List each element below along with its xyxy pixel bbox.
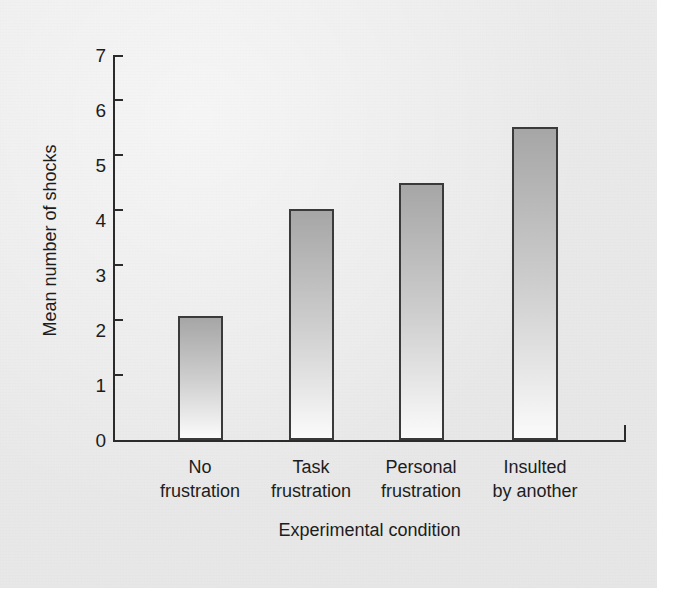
y-axis-top-cap — [113, 55, 123, 57]
y-tick-label-6: 6 — [76, 100, 106, 122]
y-tick-label-0: 0 — [76, 430, 106, 452]
x-axis-title: Experimental condition — [113, 520, 626, 541]
bar-no-frustration[interactable] — [178, 316, 223, 440]
y-axis-line — [113, 55, 115, 442]
bar-personal-frustration[interactable] — [399, 183, 444, 440]
x-label-line-2: by another — [465, 479, 605, 503]
bar-task-frustration[interactable] — [289, 209, 334, 440]
y-tick-label-2: 2 — [76, 320, 106, 342]
y-tick-label-5: 5 — [76, 155, 106, 177]
y-tick-label-1: 1 — [76, 375, 106, 397]
x-label-line-1: Insulted — [465, 455, 605, 479]
x-axis-end-cap — [624, 425, 626, 442]
y-axis-title: Mean number of shocks — [40, 81, 61, 401]
figure-root: Mean number of shocks 7 6 5 4 3 2 1 0 No… — [0, 0, 673, 601]
y-tick-label-4: 4 — [76, 210, 106, 232]
bar-insulted-by-another[interactable] — [512, 127, 558, 441]
x-label-insulted-by-another: Insulted by another — [465, 455, 605, 503]
y-tick-label-7: 7 — [76, 45, 106, 67]
bar-chart-plot: Mean number of shocks 7 6 5 4 3 2 1 0 No… — [0, 0, 673, 601]
x-axis-line — [113, 440, 626, 442]
y-tick-label-3: 3 — [76, 265, 106, 287]
